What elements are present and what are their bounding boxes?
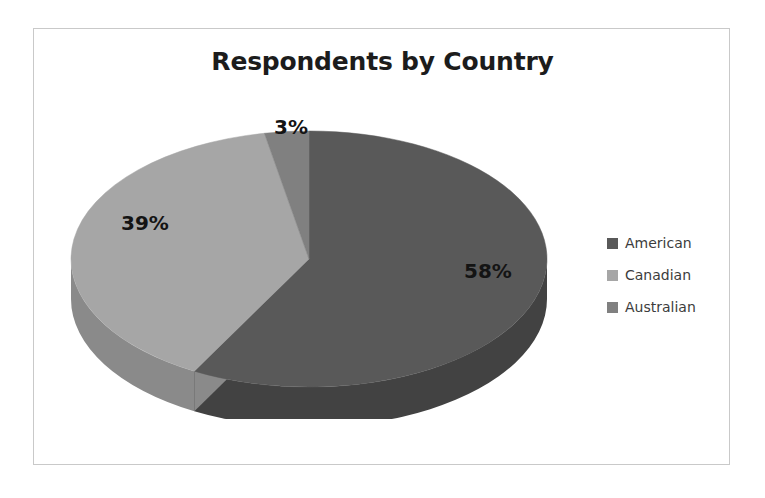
legend-swatch-icon-american (607, 238, 618, 249)
legend-label-american: American (625, 236, 692, 250)
chart-legend: American Canadian Australian (607, 227, 727, 323)
legend-item-canadian[interactable]: Canadian (607, 259, 727, 291)
legend-label-canadian: Canadian (625, 268, 691, 282)
legend-item-australian[interactable]: Australian (607, 291, 727, 323)
pie-chart-3d (54, 119, 594, 419)
slice-label-australian: 3% (274, 115, 308, 139)
legend-swatch-icon-canadian (607, 270, 618, 281)
slice-label-canadian: 39% (121, 211, 169, 235)
slice-label-american: 58% (464, 259, 512, 283)
legend-swatch-icon-australian (607, 302, 618, 313)
legend-label-australian: Australian (625, 300, 696, 314)
chart-frame: Respondents by Country 3% 39% 58% Americ… (33, 28, 730, 465)
legend-item-american[interactable]: American (607, 227, 727, 259)
